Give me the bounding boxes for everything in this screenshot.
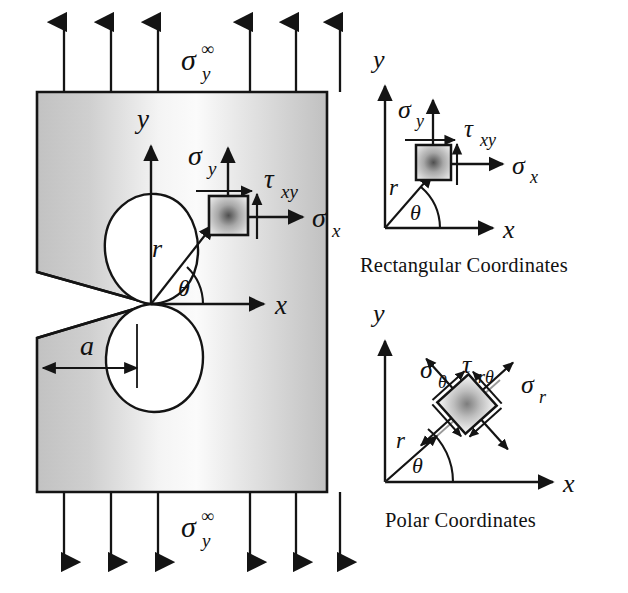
rect-radius-label: r xyxy=(389,175,399,200)
stress-element-square xyxy=(209,196,248,235)
sigma-superscript-infinity: ∞ xyxy=(201,39,214,59)
sigma-y-label: σ xyxy=(188,140,203,171)
polar-sigma-theta-subscript: θ xyxy=(438,372,447,392)
sigma-y-subscript: y xyxy=(206,158,217,179)
sigma-symbol: σ xyxy=(181,43,197,76)
rect-x-axis-label: x xyxy=(502,215,515,244)
rect-sigma-x-label: σ xyxy=(512,151,526,180)
stress-element-square xyxy=(416,145,451,180)
rect-sigma-x-subscript: x xyxy=(529,167,538,187)
radius-label: r xyxy=(152,234,163,263)
sigma-subscript-y: y xyxy=(200,63,211,84)
rect-y-axis-label: y xyxy=(370,45,385,74)
polar-tau-rtheta-subscript: rθ xyxy=(478,367,494,387)
polar-angle-label: θ xyxy=(412,453,423,478)
polar-sigma-r-label: σ xyxy=(521,370,535,399)
tau-xy-subscript: xy xyxy=(280,181,298,202)
sigma-superscript-infinity: ∞ xyxy=(201,506,214,526)
rect-tau-xy-label: τ xyxy=(464,115,474,142)
polar-y-axis-label: y xyxy=(370,299,385,328)
sigma-subscript-y: y xyxy=(200,530,211,551)
tau-xy-label: τ xyxy=(264,164,275,194)
sigma-symbol: σ xyxy=(181,510,197,543)
polar-sigma-theta-label: σ xyxy=(420,355,434,384)
polar-coordinates-caption: Polar Coordinates xyxy=(385,509,536,531)
rect-sigma-y-subscript: y xyxy=(414,111,424,131)
plastic-zone-lower-lobe xyxy=(106,304,203,412)
sigma-x-subscript: x xyxy=(331,220,341,241)
fracture-mechanics-diagram: σ y ∞ σ y ∞ y x r θ xyxy=(0,0,628,593)
crack-length-label: a xyxy=(80,330,94,361)
rect-sigma-y-label: σ xyxy=(398,95,412,124)
polar-sigma-r-subscript: r xyxy=(539,387,547,407)
rectangular-coordinates-caption: Rectangular Coordinates xyxy=(360,254,568,277)
rect-angle-label: θ xyxy=(410,200,421,225)
local-x-axis-label: x xyxy=(274,290,287,320)
figure-root: σ y ∞ σ y ∞ y x r θ xyxy=(0,0,628,593)
sigma-x-label: σ xyxy=(312,202,327,233)
polar-radius-label: r xyxy=(396,428,406,453)
rect-tau-xy-subscript: xy xyxy=(479,130,496,150)
local-y-axis-label: y xyxy=(134,104,149,134)
angle-label: θ xyxy=(178,275,190,301)
polar-x-axis-label: x xyxy=(562,469,575,498)
